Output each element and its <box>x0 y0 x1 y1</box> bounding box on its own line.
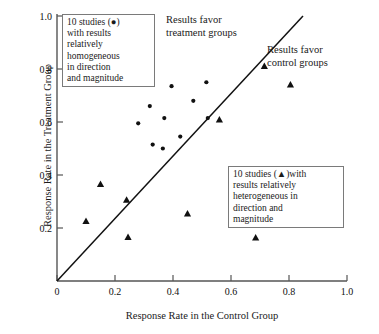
legend-homogeneous-line-3: relatively <box>67 39 151 50</box>
legend-heterogeneous-line-3: heterogeneous in <box>233 191 340 202</box>
y-axis-title: Response Rate in the Treatment Group <box>42 11 53 281</box>
x-tick-label-0.6: 0.6 <box>225 286 238 297</box>
legend-box-homogeneous: 10 studies (●) with results relatively h… <box>62 14 155 87</box>
scatter-plot-figure: 0 0.2 0.4 0.6 0.8 1.0 0.2 0.4 0.6 0.8 1.… <box>0 0 379 334</box>
annotation-treatment-line-1: Results favor <box>166 14 237 27</box>
data-point-triangle <box>124 233 131 239</box>
data-point-triangle <box>82 218 89 224</box>
data-point-triangle <box>287 81 294 87</box>
data-point-triangle <box>97 180 104 186</box>
data-point-triangle <box>216 116 223 122</box>
data-point-circle <box>148 104 152 108</box>
data-point-triangle <box>184 210 191 216</box>
x-tick-label-1.0: 1.0 <box>341 286 354 297</box>
data-point-circle <box>169 84 173 88</box>
legend-homogeneous-line-2: with results <box>67 28 151 39</box>
data-point-circle <box>161 146 165 150</box>
x-tick-label-0.8: 0.8 <box>283 286 296 297</box>
x-axis-title: Response Rate in the Control Group <box>57 310 347 321</box>
data-point-circle <box>178 134 182 138</box>
data-point-circle <box>136 121 140 125</box>
annotation-treatment-line-2: treatment groups <box>166 27 237 40</box>
data-point-triangle <box>252 234 259 240</box>
x-tick-label-0: 0 <box>55 286 60 297</box>
legend-heterogeneous-line-1: 10 studies (▲)with <box>233 169 340 180</box>
annotation-results-favor-treatment: Results favor treatment groups <box>166 14 237 39</box>
data-series-homogeneous <box>136 80 210 150</box>
x-tick-label-0.4: 0.4 <box>167 286 180 297</box>
data-point-triangle <box>123 196 130 202</box>
annotation-control-line-2: control groups <box>267 57 328 70</box>
legend-homogeneous-line-6: and magnitude <box>67 73 151 84</box>
data-point-circle <box>191 99 195 103</box>
data-point-circle <box>151 142 155 146</box>
legend-homogeneous-line-5: in direction <box>67 62 151 73</box>
annotation-control-line-1: Results favor <box>267 44 328 57</box>
data-point-circle <box>204 80 208 84</box>
x-tick-label-0.2: 0.2 <box>109 286 122 297</box>
x-axis-ticks <box>57 275 347 281</box>
legend-heterogeneous-line-2: results relatively <box>233 180 340 191</box>
legend-homogeneous-line-1: 10 studies (●) <box>67 17 151 28</box>
legend-homogeneous-line-4: homogeneous <box>67 51 151 62</box>
legend-box-heterogeneous: 10 studies (▲)with results relatively he… <box>228 166 344 228</box>
annotation-results-favor-control: Results favor control groups <box>267 44 328 69</box>
legend-heterogeneous-line-4: direction and <box>233 203 340 214</box>
legend-heterogeneous-line-5: magnitude <box>233 214 340 225</box>
data-point-circle <box>206 116 210 120</box>
data-point-circle <box>162 116 166 120</box>
